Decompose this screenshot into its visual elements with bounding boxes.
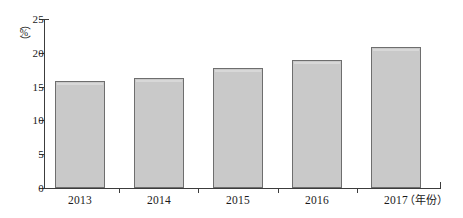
bar-top-highlight (373, 49, 419, 51)
bar-top-highlight (215, 70, 261, 72)
y-axis-tick-label: 5 (10, 149, 44, 160)
x-axis-category-label: 2016 (287, 193, 347, 207)
x-axis-category-label: 2015 (208, 193, 268, 207)
x-axis-unit-label: （年份） (404, 193, 448, 207)
bar-top-highlight (294, 62, 340, 64)
x-axis-tick (119, 188, 120, 193)
y-axis-tick-label: 0 (10, 183, 44, 194)
y-axis-tick-label: 25 (10, 14, 44, 25)
bar-top-highlight (57, 83, 103, 85)
x-axis-tick (198, 188, 199, 193)
bar-chart: （ % ） 0510152025 20132014201520162017 （年… (0, 0, 463, 218)
bar (292, 60, 342, 188)
x-axis-tick (357, 188, 358, 193)
x-axis-end-cap (440, 182, 441, 189)
bar (213, 68, 263, 188)
x-axis-tick (278, 188, 279, 193)
x-axis-category-label: 2013 (50, 193, 110, 207)
x-axis-category-label: 2014 (129, 193, 189, 207)
y-axis-tick-label: 20 (10, 48, 44, 59)
y-axis-line (44, 19, 45, 189)
bar (55, 81, 105, 188)
y-axis-unit-label: （ % ） (10, 22, 38, 43)
y-axis-tick-label: 10 (10, 115, 44, 126)
bar-top-highlight (136, 80, 182, 82)
y-axis-tick-label: 15 (10, 82, 44, 93)
bar (371, 47, 421, 188)
bar (134, 78, 184, 188)
x-axis-line (44, 188, 441, 189)
